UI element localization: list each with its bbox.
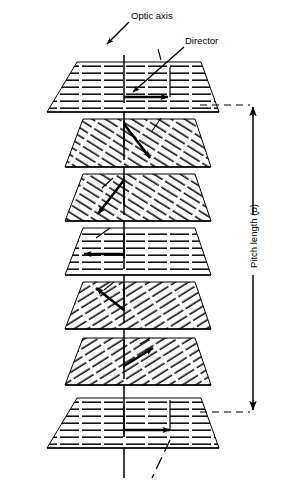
layer-6 xyxy=(65,338,211,385)
layer-3-plane xyxy=(65,174,211,221)
cholesteric-liquid-crystal-diagram: Optic axis Director Pitch length (p) xyxy=(0,0,284,485)
layer-7 xyxy=(47,398,219,448)
layer-6-plane xyxy=(65,338,211,385)
layer-3 xyxy=(65,174,211,221)
director-leader-tick xyxy=(158,49,161,60)
layer-4-plane xyxy=(65,228,211,275)
director-label: Director xyxy=(185,35,218,46)
pitch-length-label: Pitch length (p) xyxy=(248,204,259,268)
optic-axis-label: Optic axis xyxy=(131,10,173,21)
layer-1 xyxy=(47,62,219,112)
layer-4 xyxy=(65,228,211,275)
pitch-length-suffix: ) xyxy=(248,204,259,207)
pitch-length-prefix: Pitch length ( xyxy=(248,212,259,268)
layer-5 xyxy=(65,282,211,329)
pitch-length-marker xyxy=(200,105,253,412)
layer-1-plane xyxy=(47,62,219,112)
layer-7-plane xyxy=(47,398,219,448)
layer-5-plane xyxy=(65,282,211,329)
pitch-length-label-group: Pitch length (p) xyxy=(248,204,259,268)
diagram-canvas: Optic axis Director Pitch length (p) xyxy=(0,0,284,485)
optic-axis-leader xyxy=(107,22,129,44)
